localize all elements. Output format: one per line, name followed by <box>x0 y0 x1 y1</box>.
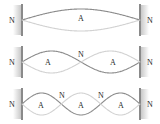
antinode-label: A <box>118 102 124 110</box>
antinode-label: A <box>38 102 44 110</box>
harmonic-row-second: NNNAA <box>0 42 160 82</box>
node-label: N <box>59 92 65 100</box>
antinode-label: A <box>110 59 116 67</box>
antinode-label: A <box>78 15 84 23</box>
standing-wave-figure: NNA NNNAA <box>0 0 160 124</box>
node-label: N <box>9 59 15 67</box>
antinode-label: A <box>45 59 51 67</box>
node-label: N <box>147 17 153 25</box>
node-label: N <box>9 101 15 109</box>
antinode-label: A <box>78 102 84 110</box>
node-label: N <box>78 51 84 59</box>
harmonic-row-first: NNA <box>0 0 160 40</box>
node-label: N <box>147 101 153 109</box>
node-label: N <box>147 59 153 67</box>
node-label: N <box>98 92 104 100</box>
harmonic-row-third: NNNNAAA <box>0 84 160 124</box>
second-harmonic-wave-graphic <box>0 42 160 82</box>
node-label: N <box>9 17 15 25</box>
